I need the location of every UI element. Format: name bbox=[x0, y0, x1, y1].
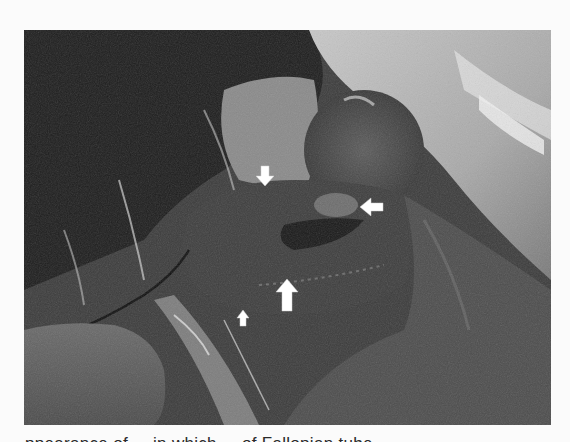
figure-caption-clip: ...ppearance of ... in which ... of Fall… bbox=[0, 428, 570, 442]
figure-caption: ...ppearance of ... in which ... of Fall… bbox=[10, 434, 570, 442]
photo-canvas bbox=[24, 30, 551, 425]
surgical-photo bbox=[24, 30, 551, 425]
film-grain bbox=[24, 30, 551, 425]
